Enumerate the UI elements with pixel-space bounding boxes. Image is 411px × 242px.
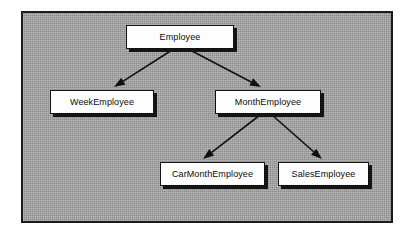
diagram-screenshot: EmployeeWeekEmployeeMonthEmployeeCarMont…	[0, 0, 411, 242]
class-node-label: CarMonthEmployee	[172, 170, 253, 179]
arrow-shaft	[212, 115, 260, 152]
class-node-label: WeekEmployee	[70, 98, 134, 107]
diagram-canvas: EmployeeWeekEmployeeMonthEmployeeCarMont…	[23, 13, 391, 221]
inheritance-arrow-employee-to-month-employee	[190, 50, 261, 87]
inheritance-arrow-employee-to-week-employee	[114, 50, 172, 87]
class-node-sales-employee[interactable]: SalesEmployee	[278, 162, 369, 186]
arrowhead-icon	[311, 149, 322, 159]
class-node-label: MonthEmployee	[235, 98, 301, 107]
class-node-label: Employee	[160, 33, 201, 42]
class-node-label: SalesEmployee	[292, 170, 356, 179]
arrowhead-icon	[249, 78, 261, 87]
diagram-frame: EmployeeWeekEmployeeMonthEmployeeCarMont…	[21, 11, 393, 223]
arrow-shaft	[272, 115, 314, 152]
class-node-week-employee[interactable]: WeekEmployee	[50, 90, 154, 114]
inheritance-arrow-month-employee-to-car-month-employee	[203, 115, 260, 159]
class-node-car-month-employee[interactable]: CarMonthEmployee	[160, 162, 265, 186]
arrowhead-icon	[114, 78, 125, 87]
class-node-employee[interactable]: Employee	[126, 25, 234, 49]
inheritance-arrow-month-employee-to-sales-employee	[272, 115, 322, 159]
arrow-shaft	[190, 50, 251, 82]
arrow-shaft	[123, 50, 172, 81]
arrowhead-icon	[203, 149, 214, 159]
class-node-month-employee[interactable]: MonthEmployee	[215, 90, 321, 114]
